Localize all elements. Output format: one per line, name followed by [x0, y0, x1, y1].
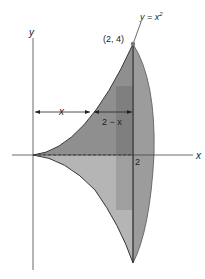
- x-axis-label: x: [195, 150, 202, 161]
- ellipse-cross-section: [133, 44, 154, 263]
- curve-label-leader: [133, 22, 141, 44]
- point-2-4: [131, 42, 135, 46]
- shell-strip-lower: [116, 155, 133, 210]
- curve-label: y = x2: [139, 11, 163, 22]
- x-tick-2: 2: [135, 157, 140, 167]
- solid-of-revolution-diagram: y x 2 (2, 4) y = x2 x 2 − x: [0, 0, 205, 279]
- dimension-x-label: x: [58, 106, 65, 117]
- y-axis-label: y: [28, 27, 35, 38]
- point-label: (2, 4): [103, 34, 124, 44]
- dimension-2-minus-x-label: 2 − x: [102, 117, 122, 127]
